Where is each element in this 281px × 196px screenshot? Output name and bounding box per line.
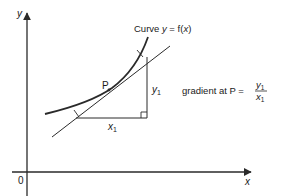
formula-text: gradient at P = xyxy=(182,85,244,96)
angle-marker-lower xyxy=(74,110,79,117)
run-label: x1 xyxy=(107,121,117,133)
rise-label: y1 xyxy=(151,84,161,96)
gradient-diagram: y x 0 P Curve y = f(x) x1 y1 gradient at… xyxy=(0,0,281,196)
x-axis-label: x xyxy=(244,176,251,187)
formula-numerator: y1 xyxy=(255,79,265,91)
formula-denominator: x1 xyxy=(255,91,265,103)
origin-label: 0 xyxy=(18,175,24,186)
curve-label: Curve y = f(x) xyxy=(134,23,191,34)
right-angle-marker xyxy=(141,112,147,118)
y-axis-label: y xyxy=(16,8,23,19)
point-p-label: P xyxy=(102,80,109,91)
